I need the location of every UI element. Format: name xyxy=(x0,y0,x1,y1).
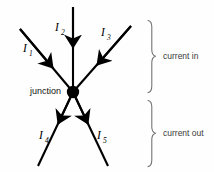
brace-in-path xyxy=(148,21,156,93)
current-label-I4: I xyxy=(38,129,44,141)
brace-out-path xyxy=(148,101,156,167)
current-arrowhead-I4 xyxy=(58,92,73,124)
current-subscript-I2: 2 xyxy=(61,28,65,37)
brace-current-out: current out xyxy=(148,101,204,167)
current-label-I3: I xyxy=(100,26,106,38)
current-arrow-I3: I 3 xyxy=(73,26,131,92)
current-subscript-I3: 3 xyxy=(106,33,111,42)
current-junction-diagram: I 1 I 2 I 3 junction I 4 xyxy=(0,0,214,172)
current-arrowhead-I5 xyxy=(73,92,88,124)
brace-in-label: current in xyxy=(163,51,199,61)
current-label-I1: I xyxy=(22,42,28,54)
current-arrow-I4: I 4 xyxy=(38,92,73,166)
current-label-I2: I xyxy=(54,21,60,33)
junction-label: junction xyxy=(29,86,61,96)
current-subscript-I1: 1 xyxy=(29,49,33,58)
current-arrow-I5: I 5 xyxy=(73,92,108,166)
brace-out-label: current out xyxy=(163,128,204,138)
current-subscript-I5: 5 xyxy=(103,136,107,145)
current-arrow-I1: I 1 xyxy=(20,29,73,92)
diagram-canvas: I 1 I 2 I 3 junction I 4 xyxy=(0,0,214,172)
brace-current-in: current in xyxy=(148,21,199,93)
current-label-I5: I xyxy=(96,129,102,141)
current-subscript-I4: 4 xyxy=(45,136,49,145)
